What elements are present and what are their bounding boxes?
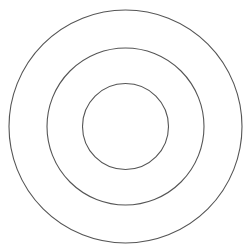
background xyxy=(0,0,251,252)
concentric-circles-diagram xyxy=(0,0,251,252)
